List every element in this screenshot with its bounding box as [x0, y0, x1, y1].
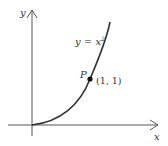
curve-equation-label: y = x2: [74, 35, 105, 47]
point-name-label: P: [79, 69, 87, 80]
point-p-marker: [87, 76, 92, 81]
curve-equation-exponent: 2: [100, 35, 105, 42]
curve-equation-lhs: y = x: [74, 36, 101, 47]
point-coords-label: (1, 1): [96, 75, 122, 86]
x-axis-label: x: [154, 131, 160, 142]
parabola-diagram: y x y = x2 P (1, 1): [0, 0, 168, 146]
y-axis-label: y: [19, 7, 26, 18]
